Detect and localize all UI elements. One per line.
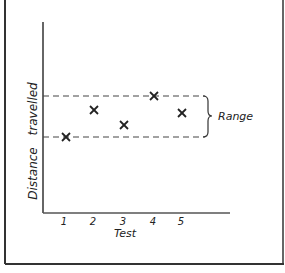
data-point-3	[120, 121, 128, 129]
x-tick-1: 1	[61, 216, 67, 227]
data-point-5	[178, 109, 186, 117]
x-axis-title: Test	[114, 227, 137, 240]
range-brace-icon	[203, 96, 212, 137]
range-label: Range	[218, 110, 253, 123]
y-axis-title: Distance travelled	[26, 82, 40, 200]
data-points	[62, 92, 186, 141]
chart-frame: Range 1 2 3 4 5 Test Distance travelled	[0, 0, 285, 273]
x-tick-5: 5	[178, 216, 184, 227]
x-tick-2: 2	[90, 216, 96, 227]
x-tick-4: 4	[150, 216, 156, 227]
chart-svg: Range 1 2 3 4 5 Test Distance travelled	[0, 0, 285, 273]
data-point-2	[90, 106, 98, 114]
x-tick-3: 3	[120, 216, 126, 227]
